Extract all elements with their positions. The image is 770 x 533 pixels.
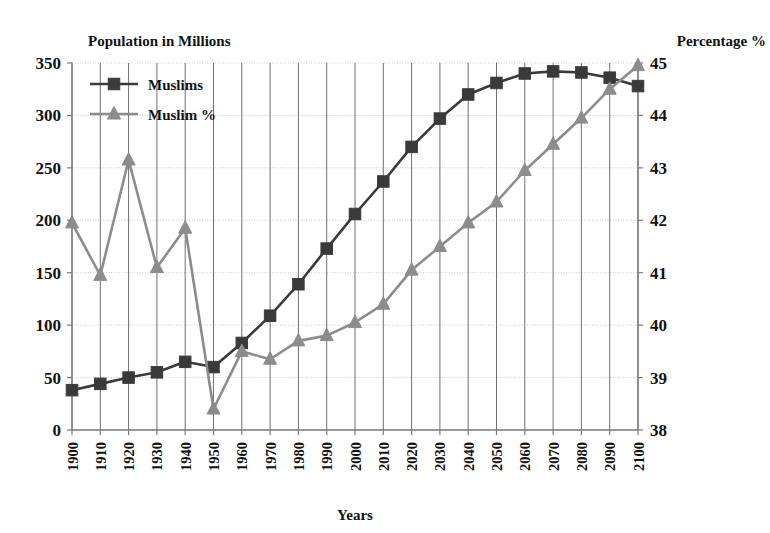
- x-tick-label: 1940: [178, 442, 194, 471]
- data-point-marker: [491, 77, 503, 89]
- x-tick-label: 2000: [348, 442, 364, 471]
- x-tick-label: 1920: [121, 442, 137, 471]
- data-point-marker: [264, 310, 276, 322]
- right-tick-label: 40: [650, 316, 667, 335]
- data-point-marker: [632, 80, 644, 92]
- left-tick-label: 250: [36, 159, 62, 178]
- left-tick-label: 100: [36, 316, 62, 335]
- left-tick-label: 50: [44, 369, 61, 388]
- data-point-marker: [547, 66, 559, 78]
- right-tick-label: 42: [650, 211, 667, 230]
- legend-label: Muslims: [148, 77, 203, 93]
- x-tick-label: 2050: [489, 442, 505, 471]
- left-tick-label: 150: [36, 264, 62, 283]
- x-tick-label: 2020: [404, 442, 420, 471]
- data-point-marker: [406, 141, 418, 153]
- x-tick-label: 2040: [461, 442, 477, 471]
- left-tick-label: 0: [53, 421, 62, 440]
- x-tick-label: 2060: [517, 442, 533, 471]
- data-point-marker: [378, 176, 390, 188]
- left-tick-label: 200: [36, 211, 62, 230]
- x-tick-label: 1950: [206, 442, 222, 471]
- x-tick-label: 2070: [546, 442, 562, 471]
- x-tick-label: 1970: [263, 442, 279, 471]
- data-point-marker: [123, 372, 135, 384]
- x-tick-label: 2010: [376, 442, 392, 471]
- data-point-marker: [208, 361, 220, 373]
- right-tick-label: 45: [650, 54, 667, 73]
- data-point-marker: [349, 208, 361, 220]
- x-tick-label: 2090: [602, 442, 618, 471]
- data-point-marker: [462, 89, 474, 101]
- right-tick-label: 38: [650, 421, 667, 440]
- right-tick-label: 39: [650, 369, 667, 388]
- x-tick-label: 2030: [432, 442, 448, 471]
- x-axis-tick-labels: 1900191019201930194019501960197019801990…: [65, 442, 647, 471]
- left-tick-label: 300: [36, 106, 62, 125]
- right-tick-label: 43: [650, 159, 667, 178]
- x-tick-label: 1930: [149, 442, 165, 471]
- legend-label: Muslim %: [148, 107, 216, 123]
- right-tick-label: 41: [650, 264, 667, 283]
- population-percentage-chart: 050100150200250300350 3839404142434445 1…: [0, 0, 770, 533]
- data-point-marker: [293, 278, 305, 290]
- left-tick-label: 350: [36, 54, 62, 73]
- data-point-marker: [95, 378, 107, 390]
- x-tick-label: 1990: [319, 442, 335, 471]
- right-axis-title: Percentage %: [677, 33, 766, 49]
- data-point-marker: [179, 356, 191, 368]
- x-tick-label: 1900: [65, 442, 81, 471]
- data-point-marker: [434, 113, 446, 125]
- x-tick-label: 1910: [93, 442, 109, 471]
- x-tick-label: 2080: [574, 442, 590, 471]
- data-point-marker: [321, 243, 333, 255]
- x-tick-label: 2100: [631, 442, 647, 471]
- data-point-marker: [519, 68, 531, 80]
- left-axis-title: Population in Millions: [88, 33, 231, 49]
- data-point-marker: [576, 67, 588, 79]
- x-tick-label: 1960: [234, 442, 250, 471]
- right-tick-label: 44: [650, 106, 668, 125]
- data-point-marker: [66, 384, 78, 396]
- bottom-axis: [72, 430, 638, 435]
- data-point-marker: [151, 367, 163, 379]
- x-tick-label: 1980: [291, 442, 307, 471]
- data-point-marker: [108, 78, 120, 90]
- chart-canvas: 050100150200250300350 3839404142434445 1…: [0, 0, 770, 533]
- x-axis-title: Years: [337, 507, 373, 523]
